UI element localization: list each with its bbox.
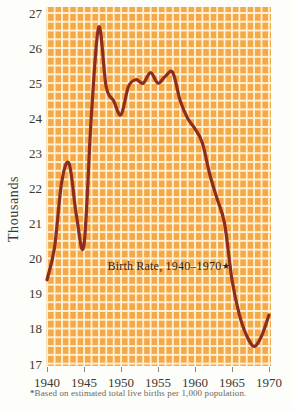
star-icon: ★ bbox=[222, 261, 230, 271]
y-axis-label: 23 bbox=[14, 146, 42, 161]
plot-area: Birth Rate, 1940–1970★ bbox=[46, 7, 271, 366]
x-axis-label: 1970 bbox=[256, 375, 282, 391]
y-axis-label: 25 bbox=[14, 76, 42, 91]
x-axis-tick bbox=[232, 367, 233, 372]
y-axis-label: 27 bbox=[14, 6, 42, 21]
x-axis-tick bbox=[158, 367, 159, 372]
y-axis-label: 19 bbox=[14, 286, 42, 301]
x-axis-tick bbox=[47, 367, 48, 372]
birth-rate-line bbox=[47, 27, 269, 347]
y-axis-label: 20 bbox=[14, 251, 42, 266]
y-axis-label: 22 bbox=[14, 181, 42, 196]
x-axis-tick bbox=[269, 367, 270, 372]
chart-title: Birth Rate, 1940–1970★ bbox=[107, 259, 230, 274]
y-axis-label: 21 bbox=[14, 216, 42, 231]
birth-rate-line-chart bbox=[46, 7, 271, 366]
y-axis-label: 17 bbox=[14, 357, 42, 372]
x-axis-tick bbox=[121, 367, 122, 372]
x-axis-tick bbox=[84, 367, 85, 372]
y-axis-label: 26 bbox=[14, 41, 42, 56]
chart-title-text: Birth Rate, 1940–1970 bbox=[107, 259, 221, 273]
x-axis-tick bbox=[195, 367, 196, 372]
footnote-text: Based on estimated total live births per… bbox=[35, 388, 247, 398]
footnote: *Based on estimated total live births pe… bbox=[30, 388, 246, 398]
y-axis-label: 18 bbox=[14, 321, 42, 336]
birth-rate-chart: Thousands 2726252423222120191817 Birth R… bbox=[0, 0, 293, 412]
y-axis-label: 24 bbox=[14, 111, 42, 126]
